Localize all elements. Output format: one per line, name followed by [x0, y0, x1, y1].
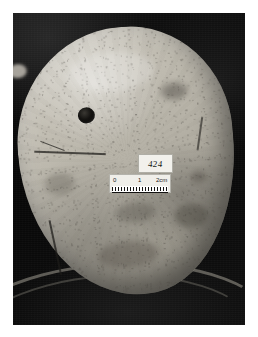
photograph-plate: 424 0 1 2cm [13, 13, 245, 325]
scale-tick-label-0: 0 [113, 176, 116, 185]
photograph-page: 424 0 1 2cm [0, 0, 258, 337]
scale-bar-ruler [112, 186, 168, 193]
scale-tick-label-1: 1 [138, 176, 141, 185]
specimen-number-label: 424 [138, 154, 173, 173]
scale-bar: 0 1 2cm [109, 174, 171, 193]
specimen-number-text: 424 [148, 159, 164, 169]
scale-tick-label-2: 2cm [156, 176, 167, 185]
scale-bar-labels: 0 1 2cm [112, 176, 168, 185]
